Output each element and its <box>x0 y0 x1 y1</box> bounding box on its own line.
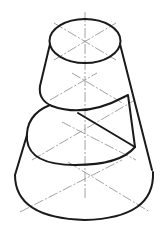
cone-drawing <box>0 0 164 236</box>
drawing-canvas: truncated cone with a helical/step cut <box>0 0 164 236</box>
upper-left-edge <box>40 44 52 106</box>
mid-diagonal-line-b <box>72 73 124 104</box>
cut-right-edge <box>124 95 135 147</box>
upper-bottom-arc <box>52 97 124 110</box>
cut-diagonal-edge <box>78 113 135 147</box>
right-outer-edge <box>120 44 152 170</box>
mid-diagonal-line-a <box>50 73 97 100</box>
lower-left-edge <box>15 135 27 175</box>
outline <box>15 19 153 220</box>
middle-diagonal-line-a <box>32 100 135 160</box>
bottom-diagonal-line-b <box>68 162 150 212</box>
